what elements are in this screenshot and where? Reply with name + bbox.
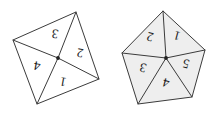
quadrilateral-outline [13, 12, 99, 104]
quadrilateral-center-point [56, 56, 60, 60]
quadrilateral-4-triangles: 1234 [13, 12, 99, 104]
figure-container: 123412345 [0, 0, 223, 116]
polygon-diagram: 123412345 [0, 0, 223, 116]
pentagon-center-point [164, 56, 168, 60]
pentagon-5-triangles: 12345 [122, 11, 205, 104]
